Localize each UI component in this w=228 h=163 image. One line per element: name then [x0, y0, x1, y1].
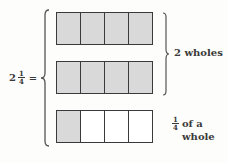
whole-bar-2	[56, 61, 153, 94]
whole-bar-1	[56, 12, 153, 45]
bar-cell-shaded	[57, 13, 81, 44]
equals-sign: =	[29, 72, 37, 83]
bar-cell-empty	[105, 111, 129, 142]
right-brace-icon	[162, 12, 170, 96]
bar-cell-empty	[129, 111, 152, 142]
wholes-label: 2 wholes	[174, 47, 223, 58]
quarter-text-line1: of a	[182, 118, 203, 130]
bar-cell-shaded	[57, 62, 81, 93]
whole-part: 2	[9, 72, 16, 83]
quarter-text-line2: whole	[182, 131, 215, 143]
quarter-denominator: 4	[173, 124, 178, 131]
fraction-denominator: 4	[19, 78, 24, 85]
bar-cell-shaded	[129, 62, 152, 93]
bar-cell-shaded	[81, 13, 105, 44]
bar-cell-shaded	[105, 62, 129, 93]
bar-cell-empty	[81, 111, 105, 142]
quarter-fraction: 1 4	[172, 116, 179, 131]
mixed-number-label: 2 1 4 =	[9, 70, 37, 85]
bar-cell-shaded	[105, 13, 129, 44]
quarter-label: 1 4 of a whole	[172, 116, 215, 143]
left-brace-icon	[40, 9, 50, 147]
bar-cell-shaded	[57, 111, 81, 142]
bar-cell-shaded	[129, 13, 152, 44]
quarter-bar	[56, 110, 153, 143]
fraction-part: 1 4	[18, 70, 25, 85]
bar-cell-shaded	[81, 62, 105, 93]
